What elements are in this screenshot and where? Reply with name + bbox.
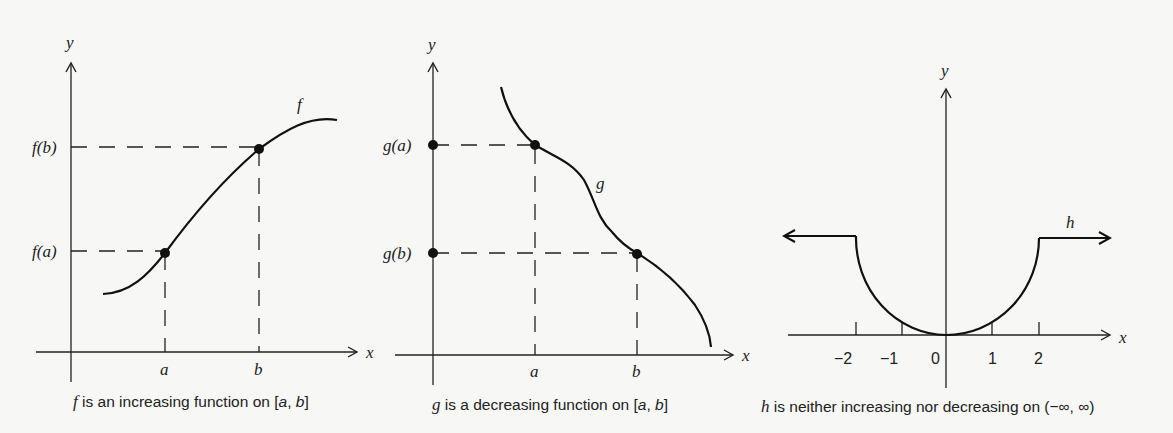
curve-label-g: g — [596, 174, 605, 193]
x-axis-label: x — [365, 343, 374, 362]
point-b-gb — [632, 249, 642, 259]
caption-h: h is neither increasing nor decreasing o… — [761, 397, 1094, 416]
function-monotonicity-figure: y x f f(b) f(a) a b f is an increasing f… — [0, 0, 1173, 433]
y-axis-label: y — [426, 35, 436, 54]
tick-label-neg1: −1 — [880, 350, 898, 367]
panel-decreasing-g: y x g g(a) g(b) a b g is a decreasing fu… — [383, 35, 750, 414]
tick-label-0: 0 — [931, 350, 940, 367]
caption-f: f is an increasing function on [a, b] — [73, 392, 309, 411]
y-axis-label: y — [939, 61, 949, 80]
tick-label-a: a — [160, 360, 169, 379]
tick-label-neg2: −2 — [834, 350, 852, 367]
y-axis-label: y — [64, 33, 74, 52]
tick-label-1: 1 — [988, 350, 997, 367]
curve-label-h: h — [1066, 213, 1075, 232]
tick-label-fb: f(b) — [32, 138, 57, 157]
tick-label-2: 2 — [1034, 350, 1043, 367]
panel-neither-h: y x h −2 −1 0 1 2 h is neither increasin… — [761, 61, 1127, 416]
point-a-ga — [530, 140, 540, 150]
curve-label-f: f — [297, 95, 304, 114]
tick-label-fa: f(a) — [32, 242, 57, 261]
curve-f — [103, 119, 337, 294]
tick-label-ga: g(a) — [383, 136, 412, 155]
curve-g — [501, 87, 711, 347]
point-a-fa — [160, 248, 170, 258]
panel-increasing-f: y x f f(b) f(a) a b f is an increasing f… — [32, 33, 374, 411]
point-ga-on-y-axis — [428, 140, 438, 150]
tick-label-b: b — [632, 362, 641, 381]
point-gb-on-y-axis — [428, 248, 438, 258]
tick-label-a: a — [530, 362, 539, 381]
point-b-fb — [254, 144, 264, 154]
x-axis-label: x — [1118, 328, 1127, 347]
caption-g: g is a decreasing function on [a, b] — [432, 395, 668, 414]
curve-h-semicircle — [856, 236, 1039, 335]
tick-label-b: b — [254, 360, 263, 379]
x-axis-label: x — [741, 346, 750, 365]
tick-label-gb: g(b) — [383, 244, 412, 263]
